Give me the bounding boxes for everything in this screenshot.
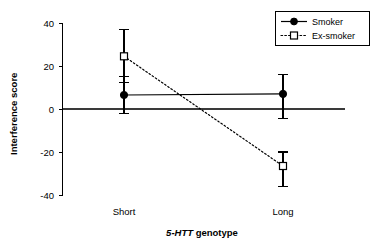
y-tick-label-40: 40: [43, 18, 54, 29]
y-tick-label-neg40: -40: [40, 190, 54, 201]
smoker-point-long: [279, 90, 286, 97]
series-ex-smoker: [119, 29, 288, 186]
smoker-line: [124, 94, 283, 95]
series-smoker: [119, 75, 288, 119]
smoker-point-short: [120, 91, 127, 98]
x-axis-title: 5-HTT genotype: [166, 227, 238, 238]
ex-smoker-line: [124, 56, 283, 166]
y-axis-title: Interference score: [8, 73, 19, 155]
legend-ex-smoker-marker: [291, 32, 298, 39]
x-axis-title-word: genotype: [193, 227, 238, 238]
legend-item-ex-smoker[interactable]: Ex-smoker: [281, 31, 355, 41]
line-chart-svg: 40 20 0 -20 -40 Interference score: [0, 0, 379, 249]
y-tick-label-0: 0: [49, 104, 54, 115]
legend-label-ex-smoker: Ex-smoker: [312, 31, 355, 41]
ex-smoker-point-short: [121, 53, 128, 60]
ex-smoker-point-long: [280, 163, 287, 170]
y-tick-label-20: 20: [43, 61, 54, 72]
x-axis-title-gene: 5-HTT: [166, 227, 194, 238]
y-tick-label-neg20: -20: [40, 147, 54, 158]
chart-legend: Smoker Ex-smoker: [276, 12, 370, 46]
legend-label-smoker: Smoker: [312, 17, 343, 27]
y-axis-ticks: [59, 23, 63, 195]
chart-figure: 40 20 0 -20 -40 Interference score: [0, 0, 379, 249]
x-tick-label-long: Long: [272, 206, 293, 217]
x-tick-label-short: Short: [113, 206, 136, 217]
legend-smoker-marker: [291, 18, 298, 25]
